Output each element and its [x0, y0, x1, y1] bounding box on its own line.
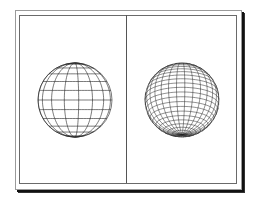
right-wireframe-sphere [142, 60, 222, 140]
panel-divider [126, 15, 127, 183]
left-wireframe-sphere [35, 60, 115, 140]
